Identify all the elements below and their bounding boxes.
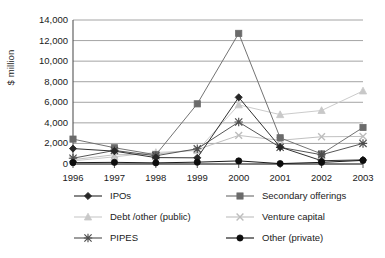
x-tick-label: 1996 — [53, 173, 93, 183]
legend-asterisk-icon — [73, 232, 103, 244]
legend-square-icon — [225, 190, 255, 202]
square-marker — [70, 136, 76, 142]
circle-marker — [194, 159, 200, 165]
line-chart: $ million 02,0004,0006,0008,00010,00012,… — [0, 0, 385, 258]
legend-x-icon — [225, 211, 255, 223]
y-axis-title: $ million — [5, 0, 16, 138]
legend-item[interactable]: Secondary offerings — [225, 190, 346, 202]
diamond-marker — [84, 192, 91, 199]
y-tick-label: 0 — [63, 159, 68, 169]
legend-item[interactable]: PIPES — [73, 232, 138, 244]
asterisk-marker — [84, 234, 92, 242]
x-tick-label: 2000 — [219, 173, 259, 183]
asterisk-marker — [193, 145, 201, 153]
y-tick-label: 14,000 — [39, 15, 68, 25]
circle-marker — [70, 160, 76, 166]
data-point-circle — [194, 159, 200, 165]
data-point-circle — [111, 159, 117, 165]
data-point-square — [360, 124, 366, 130]
data-point-asterisk — [235, 118, 243, 126]
circle-marker — [111, 159, 117, 165]
data-point-circle — [153, 160, 159, 166]
data-point-square — [277, 135, 283, 141]
plot-svg — [73, 20, 363, 164]
data-point-circle — [70, 160, 76, 166]
legend-label: Secondary offerings — [262, 191, 346, 201]
legend-marker-svg — [225, 190, 255, 202]
legend-marker-svg — [73, 232, 103, 244]
circle-marker — [318, 159, 324, 165]
x-tick-label: 2001 — [260, 173, 300, 183]
legend-diamond-icon — [73, 190, 103, 202]
data-point-circle — [236, 158, 242, 164]
square-marker — [360, 124, 366, 130]
legend-label: IPOs — [110, 191, 131, 201]
x-tick-label: 1999 — [177, 173, 217, 183]
data-point-circle — [277, 160, 283, 166]
asterisk-marker — [235, 118, 243, 126]
y-tick-label: 4,000 — [44, 118, 68, 128]
diamond-marker — [69, 145, 76, 152]
y-tick-label: 12,000 — [39, 36, 68, 46]
x-tick-label: 1997 — [94, 173, 134, 183]
triangle-marker — [318, 107, 325, 114]
x-tick-label: 2002 — [302, 173, 342, 183]
legend-label: PIPES — [110, 233, 138, 243]
square-marker — [237, 193, 243, 199]
data-point-square — [194, 101, 200, 107]
legend-item[interactable]: Venture capital — [225, 211, 325, 223]
legend-marker-svg — [225, 232, 255, 244]
legend-item[interactable]: Debt /other (public) — [73, 211, 191, 223]
data-point-circle — [318, 159, 324, 165]
circle-marker — [237, 235, 243, 241]
circle-marker — [236, 158, 242, 164]
square-marker — [277, 135, 283, 141]
legend-circle-icon — [225, 232, 255, 244]
data-point-triangle — [359, 87, 366, 94]
y-tick-label: 2,000 — [44, 138, 68, 148]
data-point-square — [237, 193, 243, 199]
triangle-marker — [359, 87, 366, 94]
legend-marker-svg — [73, 211, 103, 223]
data-point-circle — [237, 235, 243, 241]
series-secondary-offerings — [70, 30, 366, 158]
data-point-triangle — [318, 107, 325, 114]
y-tick-label: 10,000 — [39, 56, 68, 66]
data-point-asterisk — [193, 145, 201, 153]
square-marker — [236, 30, 242, 36]
x-tick-label: 1998 — [136, 173, 176, 183]
y-tick-label: 8,000 — [44, 77, 68, 87]
data-point-asterisk — [84, 234, 92, 242]
circle-marker — [277, 160, 283, 166]
legend-label: Debt /other (public) — [110, 212, 191, 222]
y-tick-label: 6,000 — [44, 97, 68, 107]
legend-marker-svg — [225, 211, 255, 223]
data-point-square — [236, 30, 242, 36]
data-point-diamond — [69, 145, 76, 152]
data-point-diamond — [84, 192, 91, 199]
legend-label: Venture capital — [262, 212, 325, 222]
circle-marker — [153, 160, 159, 166]
data-point-square — [70, 136, 76, 142]
plot-area — [73, 20, 363, 164]
asterisk-marker — [359, 139, 367, 147]
circle-marker — [360, 157, 366, 163]
legend-label: Other (private) — [262, 233, 323, 243]
legend-marker-svg — [73, 190, 103, 202]
data-point-circle — [360, 157, 366, 163]
legend-item[interactable]: Other (private) — [225, 232, 323, 244]
data-point-asterisk — [359, 139, 367, 147]
x-tick-label: 2003 — [343, 173, 383, 183]
legend-item[interactable]: IPOs — [73, 190, 131, 202]
legend-triangle-icon — [73, 211, 103, 223]
square-marker — [194, 101, 200, 107]
